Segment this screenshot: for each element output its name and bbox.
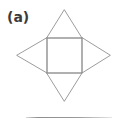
caption-rule [26,117,112,118]
right-triangle [82,38,110,73]
left-triangle [17,38,47,73]
star-outline-group [17,10,110,101]
star-net-diagram [0,0,126,123]
bottom-triangle [47,73,82,101]
top-triangle [47,10,82,38]
figure-panel: (a) [0,0,126,123]
central-square [47,38,82,73]
